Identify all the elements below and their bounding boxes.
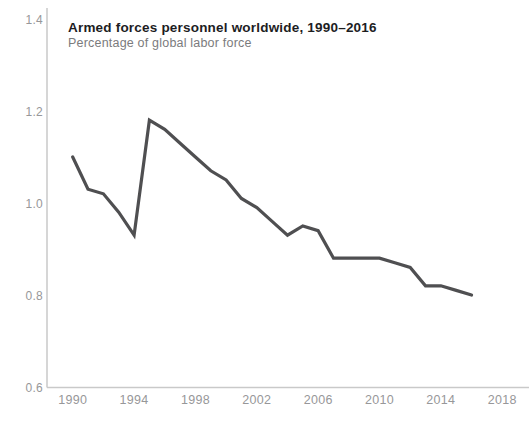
x-tick-label: 1994 [120, 393, 149, 407]
y-tick-label: 1.0 [25, 197, 43, 211]
x-tick-label: 2002 [242, 393, 271, 407]
y-tick-label: 0.8 [25, 289, 43, 303]
x-tick-label: 1990 [58, 393, 87, 407]
x-tick-label: 2014 [426, 393, 455, 407]
chart-container: Armed forces personnel worldwide, 1990–2… [0, 0, 529, 426]
y-tick-label: 0.6 [25, 381, 43, 395]
data-line-world [73, 120, 472, 295]
x-tick-label: 2018 [488, 393, 517, 407]
x-tick-label: 2006 [304, 393, 333, 407]
y-tick-label: 1.2 [25, 105, 43, 119]
x-tick-label: 2010 [365, 393, 394, 407]
y-tick-label: 1.4 [25, 13, 43, 27]
x-tick-label: 1998 [181, 393, 210, 407]
line-chart-svg: 1.41.21.00.80.61990199419982002200620102… [0, 0, 529, 426]
